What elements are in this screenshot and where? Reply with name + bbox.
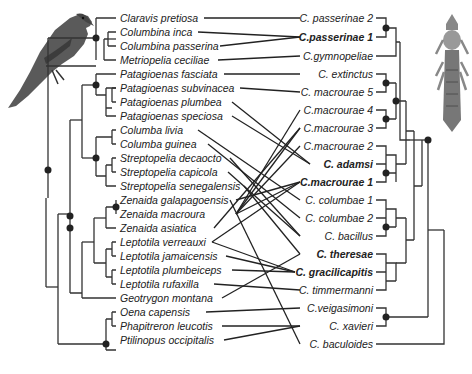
host-taxon: Leptotila verreauxi: [120, 236, 206, 248]
parasite-phylogeny: [376, 18, 444, 344]
host-taxon: Patagioenas fasciata: [120, 68, 218, 80]
host-taxon: Columbina inca: [120, 26, 193, 38]
host-taxon: Patagioenas speciosa: [120, 110, 223, 122]
parasite-taxon: C. bacillus: [325, 230, 374, 242]
host-taxon: Ptilinopus occipitalis: [120, 334, 215, 346]
parasite-labels: C. passerinae 2 C.passerinae 1 C.gymnope…: [295, 12, 374, 350]
louse-icon: [436, 14, 468, 132]
parasite-taxon: C. macrourae 5: [301, 86, 374, 98]
host-taxon: Patagioenas subvinacea: [120, 82, 235, 94]
host-taxon: Zenaida macroura: [119, 208, 205, 220]
parasite-taxon: C. gracilicapitis: [295, 266, 373, 278]
host-taxon: Columba livia: [120, 124, 183, 136]
parasite-taxon: C.macrourae 4: [304, 104, 374, 116]
host-taxon: Columbina passerina: [120, 40, 219, 52]
parasite-taxon: C.macrourae 3: [304, 122, 374, 134]
parasite-taxon: C. columbae 2: [305, 212, 373, 224]
tanglegram: Claravis pretiosa Columbina inca Columbi…: [0, 0, 472, 374]
parasite-taxon: C. theresae: [316, 248, 373, 260]
parasite-taxon: C. adamsi: [323, 158, 374, 170]
host-labels: Claravis pretiosa Columbina inca Columbi…: [119, 12, 241, 346]
dove-icon: [8, 14, 94, 109]
host-taxon: Leptotila rufaxilla: [120, 278, 199, 290]
host-taxon: Leptotila jamaicensis: [120, 250, 218, 262]
host-taxon: Streptopelia senegalensis: [120, 180, 241, 192]
host-taxon: Columba guinea: [120, 138, 197, 150]
parasite-taxon: C. timmermanni: [299, 284, 374, 296]
parasite-taxon: C. baculoides: [309, 338, 373, 350]
parasite-taxon: C. columbae 1: [305, 194, 373, 206]
parasite-taxon: C. extinctus: [318, 68, 374, 80]
host-taxon: Claravis pretiosa: [120, 12, 198, 24]
host-taxon: Oena capensis: [120, 306, 191, 318]
parasite-taxon: C.veigasimoni: [307, 302, 374, 314]
parasite-taxon: C.macrourae 2: [304, 140, 374, 152]
host-taxon: Zenaida galapagoensis: [119, 194, 229, 206]
parasite-taxon: C. xavieri: [329, 320, 373, 332]
host-taxon: Streptopelia decaocto: [120, 152, 222, 164]
parasite-taxon: C.macrourae 1: [300, 176, 373, 188]
parasite-taxon: C.gymnopeliae: [303, 50, 373, 62]
host-taxon: Phapitreron leucotis: [120, 320, 214, 332]
host-taxon: Patagioenas plumbea: [120, 96, 222, 108]
parasite-taxon: C. passerinae 2: [299, 12, 373, 24]
host-taxon: Geotrygon montana: [120, 292, 213, 304]
parasite-taxon: C.passerinae 1: [299, 31, 373, 43]
host-taxon: Leptotila plumbeiceps: [120, 264, 222, 276]
host-taxon: Streptopelia capicola: [120, 166, 218, 178]
host-taxon: Zenaida asiatica: [119, 222, 197, 234]
host-taxon: Metriopelia ceciliae: [120, 54, 209, 66]
